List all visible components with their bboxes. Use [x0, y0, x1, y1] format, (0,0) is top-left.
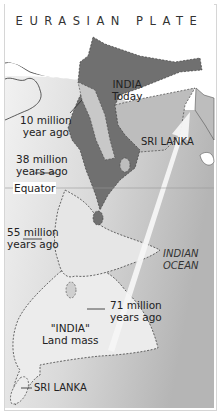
label-10-million-line1: 10 million — [20, 114, 72, 126]
label-10-million: 10 million year ago — [20, 114, 72, 138]
label-india-today: INDIA Today — [112, 78, 142, 102]
label-38-million-line2: years ago — [16, 165, 68, 177]
label-55-million-line1: 55 million — [7, 226, 59, 238]
label-sri-lanka-today: SRI LANKA — [141, 136, 194, 148]
label-38-million: 38 million years ago — [16, 153, 68, 177]
map-title: EURASIAN PLATE — [0, 14, 219, 28]
label-10-million-line2: year ago — [20, 126, 72, 138]
label-71-million-line1: 71 million — [110, 299, 162, 311]
plate-map — [0, 0, 219, 415]
label-55-million-line2: years ago — [7, 238, 59, 250]
label-38-million-line1: 38 million — [16, 153, 68, 165]
label-indian-ocean: INDIAN OCEAN — [163, 248, 199, 272]
label-india-today-line1: INDIA — [112, 78, 142, 90]
label-71-million: 71 million years ago — [110, 299, 162, 323]
label-india-land-mass: "INDIA" Land mass — [42, 322, 99, 346]
label-indian-ocean-line1: INDIAN — [163, 248, 199, 260]
label-india-land-mass-line1: "INDIA" — [42, 322, 99, 334]
label-indian-ocean-line2: OCEAN — [163, 260, 199, 272]
label-sri-lanka-past: SRI LANKA — [34, 382, 87, 394]
label-71-million-line2: years ago — [110, 311, 162, 323]
sri-lanka-71m-island — [66, 282, 76, 298]
sri-lanka-today — [93, 211, 103, 225]
label-equator: Equator — [13, 182, 56, 194]
label-india-land-mass-line2: Land mass — [42, 334, 99, 346]
sri-lanka-38m — [120, 158, 130, 172]
label-india-today-line2: Today — [112, 90, 142, 102]
label-55-million: 55 million years ago — [7, 226, 59, 250]
